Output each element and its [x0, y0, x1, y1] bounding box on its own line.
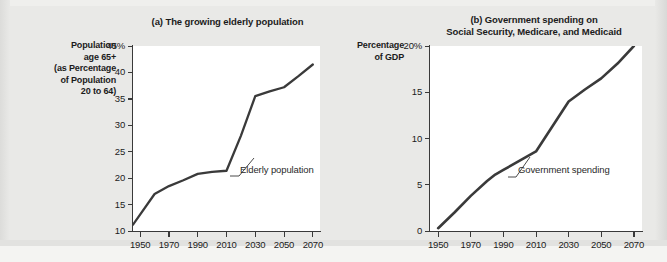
x-tick-mark	[536, 232, 537, 237]
y-tick-label: 0	[384, 225, 422, 236]
series-line	[438, 46, 634, 228]
y-tick-label: 45%	[87, 40, 125, 51]
chart-b-title-line: (b) Government spending on	[410, 14, 658, 26]
x-tick-mark	[633, 232, 634, 237]
y-tick-label: 20	[87, 172, 125, 183]
y-tick-label: 25	[87, 146, 125, 157]
chart-panel-b: (b) Government spending on Social Securi…	[334, 0, 667, 262]
y-axis-label-line: age 65+	[8, 52, 116, 64]
x-tick-mark	[255, 232, 256, 237]
y-tick-label: 15	[384, 86, 422, 97]
figure-page: (a) The growing elderly population Popul…	[0, 0, 667, 262]
y-tick-label: 20%	[384, 40, 422, 51]
x-tick-label: 2050	[584, 239, 618, 250]
y-tick-label: 30	[87, 119, 125, 130]
y-tick-label: 40	[87, 66, 125, 77]
x-tick-label: 2070	[296, 239, 330, 250]
x-tick-mark	[197, 232, 198, 237]
x-tick-label: 1970	[454, 239, 488, 250]
chart-a-annotation-label: Elderly population	[240, 164, 314, 175]
chart-a-title: (a) The growing elderly population	[120, 16, 335, 28]
x-tick-label: 2010	[519, 239, 553, 250]
x-tick-mark	[568, 232, 569, 237]
x-tick-mark	[140, 232, 141, 237]
x-tick-mark	[503, 232, 504, 237]
chart-b-series-svg	[430, 46, 642, 231]
x-tick-mark	[438, 232, 439, 237]
x-tick-mark	[312, 232, 313, 237]
x-tick-mark	[226, 232, 227, 237]
x-tick-label: 2030	[552, 239, 586, 250]
chart-b-title-line: Social Security, Medicare, and Medicaid	[410, 26, 658, 38]
x-tick-label: 1950	[421, 239, 455, 250]
y-axis-label-line: of GDP	[326, 52, 404, 64]
x-tick-mark	[470, 232, 471, 237]
series-line	[133, 65, 313, 225]
y-tick-label: 5	[384, 179, 422, 190]
chart-b-annotation-label: Government spending	[518, 164, 610, 175]
chart-panel-a: (a) The growing elderly population Popul…	[0, 0, 334, 262]
chart-b-title: (b) Government spending on Social Securi…	[410, 14, 658, 37]
x-tick-label: 1990	[486, 239, 520, 250]
x-tick-label: 2070	[617, 239, 651, 250]
y-tick-label: 10	[87, 225, 125, 236]
y-tick-label: 15	[87, 199, 125, 210]
x-tick-mark	[601, 232, 602, 237]
x-tick-mark	[168, 232, 169, 237]
y-tick-label: 10	[384, 133, 422, 144]
x-tick-mark	[284, 232, 285, 237]
y-tick-label: 35	[87, 93, 125, 104]
chart-a-series-svg	[133, 46, 320, 231]
